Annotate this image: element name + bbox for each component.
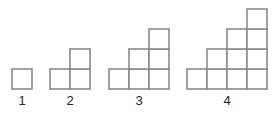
square-cell — [149, 49, 169, 69]
square-cell — [247, 69, 267, 89]
figure-2 — [50, 49, 90, 89]
square-cell — [50, 69, 70, 89]
square-cell — [129, 49, 149, 69]
figure-3 — [109, 29, 169, 89]
square-cell — [12, 69, 32, 89]
square-cell — [129, 69, 149, 89]
square-cell — [187, 69, 207, 89]
figure-1 — [12, 69, 32, 89]
square-cell — [227, 49, 247, 69]
square-cell — [70, 49, 90, 69]
square-cell — [247, 49, 267, 69]
figure-label-2: 2 — [66, 93, 73, 108]
figure-label-4: 4 — [223, 93, 230, 108]
figure-label-1: 1 — [18, 93, 25, 108]
square-cell — [70, 69, 90, 89]
square-cell — [149, 29, 169, 49]
square-cell — [247, 9, 267, 29]
square-cell — [149, 69, 169, 89]
square-cell — [109, 69, 129, 89]
staircase-diagram: 1 2 3 4 — [0, 0, 275, 114]
square-cell — [227, 69, 247, 89]
figure-4 — [187, 9, 267, 89]
square-cell — [227, 29, 247, 49]
figure-label-3: 3 — [135, 93, 142, 108]
square-cell — [207, 69, 227, 89]
square-cell — [247, 29, 267, 49]
square-cell — [207, 49, 227, 69]
